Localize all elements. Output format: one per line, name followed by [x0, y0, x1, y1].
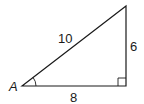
- hypotenuse-label: 10: [58, 31, 72, 46]
- angle-a-arc: [33, 78, 36, 87]
- vertex-label-a: A: [8, 79, 18, 94]
- triangle-shape: [22, 6, 126, 86]
- right-angle-marker: [118, 78, 126, 86]
- vertical-leg-label: 6: [130, 39, 137, 54]
- horizontal-leg-label: 8: [70, 90, 77, 104]
- triangle-diagram: A 10 6 8: [0, 0, 144, 104]
